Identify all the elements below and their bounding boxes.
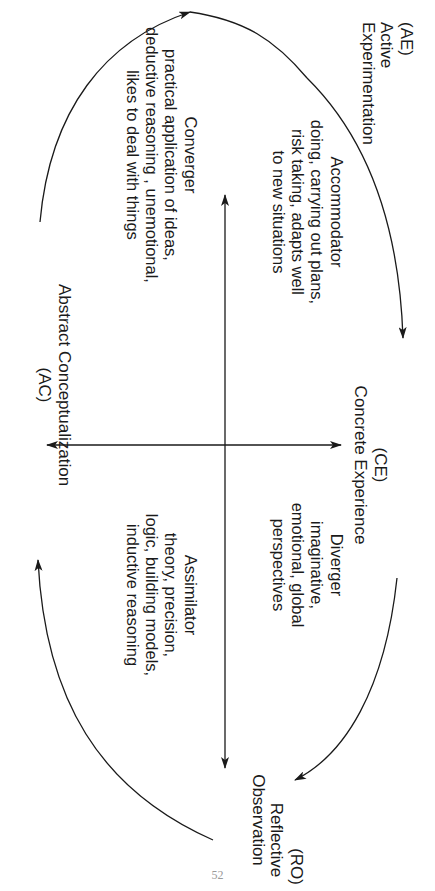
diverger-title: Diverger — [328, 534, 346, 597]
ce-name: Concrete Experience — [351, 386, 370, 545]
converger-line: likes to deal with things — [124, 70, 142, 240]
page-number: 52 — [0, 868, 435, 883]
ae-name-line2: Experimentation — [359, 22, 378, 145]
kolb-cycle-diagram: (CE) Concrete Experience (AE) Active Exp… — [0, 0, 435, 891]
ro-name-line2: Observation — [249, 774, 268, 866]
ac-abbr: (AC) — [35, 368, 54, 403]
accommodator-title: Accommodator — [328, 157, 346, 268]
assimilator-line: theory, precision, — [162, 533, 180, 657]
converger-title: Converger — [182, 116, 200, 194]
quadrant-accommodator: Accommodator doing, carrying out plans, … — [270, 120, 346, 304]
ac-name: Abstract Conceptualization — [55, 284, 74, 486]
diverger-line: perspectives — [270, 519, 288, 612]
quadrant-diverger: Diverger imaginative, emotional, global … — [270, 503, 346, 628]
assimilator-line: inductive reasoning — [124, 524, 142, 666]
ro-name-line1: Reflective — [267, 803, 286, 878]
ae-abbr: (AE) — [397, 22, 416, 56]
diverger-line: emotional, global — [289, 503, 307, 628]
accommodator-line: doing, carrying out plans, — [308, 120, 326, 304]
accommodator-line: risk taking, adapts well — [289, 129, 307, 295]
converger-line: deductive reasoning , unemotional, — [143, 27, 161, 283]
assimilator-title: Assimilator — [182, 555, 200, 636]
quadrant-converger: Converger practical application of ideas… — [124, 27, 200, 283]
accommodator-line: to new situations — [270, 151, 288, 274]
rotated-diagram-frame: (CE) Concrete Experience (AE) Active Exp… — [0, 0, 435, 891]
ae-name-line1: Active — [377, 22, 396, 68]
assimilator-line: logic, building models, — [143, 514, 161, 676]
converger-line: practical application of ideas, — [162, 49, 180, 261]
diverger-line: imaginative, — [308, 521, 326, 609]
quadrant-assimilator: Assimilator theory, precision, logic, bu… — [124, 514, 200, 676]
ce-abbr: (CE) — [371, 448, 390, 483]
cycle-arc-left-icon — [190, 12, 307, 78]
